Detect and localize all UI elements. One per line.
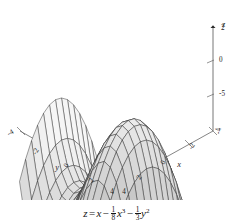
surface-patch: [44, 223, 56, 224]
x-axis-label: x: [176, 160, 181, 169]
surface-patch: [152, 223, 164, 224]
y-tick-mark: [17, 127, 25, 135]
caption-minus-1: −: [101, 207, 110, 219]
caption-fraction-one-eighth: 18: [111, 206, 117, 222]
z-axis-label: z: [221, 20, 226, 29]
x-tick-label: -4: [215, 128, 223, 134]
figure-caption: z=x−18x3−13y2: [0, 206, 233, 222]
surface-plot-figure: -4 -2 0 2 4 -4 -2 0 2 4 2 0 -5 y x z z=x…: [0, 0, 233, 224]
caption-minus-2: −: [126, 207, 135, 219]
y-tick-label: -4: [6, 128, 16, 138]
z-tick-label: -5: [219, 90, 225, 98]
caption-exponent-2: 2: [146, 207, 150, 215]
caption-fraction-one-third: 13: [135, 206, 141, 222]
y-axis-label: y: [54, 163, 59, 172]
surface-patch: [188, 223, 200, 224]
surface-patch: [110, 223, 122, 224]
fraction-denominator: 8: [111, 213, 117, 222]
fraction-denominator: 3: [135, 213, 141, 222]
y-tick-label: 4: [110, 188, 114, 196]
fraction-numerator: 1: [111, 206, 117, 214]
caption-exponent-3: 3: [122, 207, 126, 215]
surface-plot-canvas: -4 -2 0 2 4 -4 -2 0 2 4 2 0 -5 y x z: [0, 0, 233, 224]
z-tick-label: 0: [219, 56, 223, 64]
x-tick-label: 4: [122, 188, 126, 196]
fraction-numerator: 1: [135, 206, 141, 214]
